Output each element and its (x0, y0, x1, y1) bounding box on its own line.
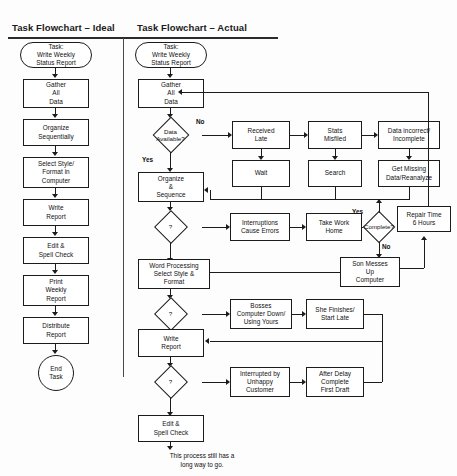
ideal-step-distribute: Distribute Report (23, 317, 89, 344)
ideal-step-edit-spell: Edit & Spell Check (23, 237, 89, 264)
rail-feedback-up-left (210, 190, 211, 199)
rail-after-up (382, 341, 383, 382)
actual-step-get-missing: Get Missing Data/Reanalyze (378, 160, 440, 187)
rail-she-right (364, 314, 382, 315)
actual-step-organize: Organize & Sequence (138, 172, 204, 202)
edge-label-no-2: No (382, 243, 391, 250)
header-actual: Task Flowchart – Actual (137, 22, 247, 33)
actual-step-bosses-computer: Bosses Computer Down/ Using Yours (230, 299, 292, 329)
rail-search-down (335, 187, 336, 199)
ideal-arrow-5 (52, 232, 58, 236)
rail-gm-down (409, 187, 410, 199)
edge-label-no-1: No (196, 118, 205, 125)
rail-after-right (364, 382, 382, 383)
diamond-shape (154, 297, 188, 331)
ideal-arrow-4 (52, 194, 58, 198)
actual-step-she-finishes: She Finishes/ Start Late (306, 299, 364, 329)
ideal-arrow-7 (52, 312, 58, 316)
actual-decision-data-available: Data Available? (139, 118, 202, 152)
actual-step-after-delay: After Delay Complete First Draft (306, 367, 364, 397)
ideal-arrow-6 (52, 270, 58, 274)
actual-decision-2: ? (139, 211, 202, 243)
rail-feedback-arrow (204, 187, 208, 193)
actual-step-repair-time: Repair Time 6 Hours (397, 206, 451, 232)
column-divider (123, 38, 124, 377)
rail-son-to-wp (210, 272, 340, 273)
actual-step-interruptions: Interruptions Cause Errors (230, 213, 290, 241)
actual-step-word-processing: Word Processing Select Style & Format (138, 259, 210, 289)
actual-arrow-complete-yes (376, 199, 382, 203)
flowchart-page: Task Flowchart – Ideal Task Flowchart – … (0, 0, 457, 476)
ideal-step-organize: Organize Sequentially (23, 119, 89, 146)
rail-she-arrow (205, 338, 209, 344)
rail-repair-up (428, 92, 429, 206)
ideal-step-select-style: Select Style/ Format in Computer (23, 157, 89, 188)
edge-label-yes-1: Yes (142, 156, 153, 163)
ideal-step-gather: Gather All Data (23, 79, 89, 108)
header-ideal: Task Flowchart – Ideal (12, 22, 115, 33)
header-rule (8, 37, 278, 39)
actual-conn-complete-yes (379, 203, 380, 213)
ideal-end-terminator: End Task (38, 355, 74, 391)
actual-conn-no-1 (202, 135, 230, 136)
edge-label-yes-2: Yes (352, 208, 363, 215)
ideal-arrow-2 (52, 114, 58, 118)
actual-start-terminator: Task: Write Weekly Status Report (135, 42, 207, 68)
rail-son-to-repair-arrow (421, 236, 427, 240)
actual-step-edit-spell: Edit & Spell Check (138, 415, 204, 442)
actual-conn-dec3-bosses (202, 314, 228, 315)
diamond-shape (363, 211, 396, 244)
actual-arrow-start (167, 74, 173, 78)
diamond-shape (154, 210, 188, 244)
actual-step-search: Search (308, 160, 362, 187)
diamond-shape (152, 117, 189, 154)
rail-repair-to-gather (182, 92, 428, 93)
ideal-arrow-3 (52, 152, 58, 156)
rail-son-to-repair-v (424, 240, 425, 268)
rail-wait-down (261, 187, 262, 199)
actual-step-write-report: Write Report (138, 329, 204, 357)
actual-step-gather: Gather All Data (138, 79, 204, 108)
actual-decision-4: ? (139, 366, 202, 398)
rail-she-to-write (210, 341, 382, 342)
diamond-shape (154, 365, 188, 399)
actual-conn-dec4-interrupted (202, 382, 228, 383)
actual-step-son-messes: Son Messes Up Computer (340, 257, 400, 287)
ideal-arrow-8 (52, 350, 58, 354)
actual-step-interrupted-by: Interrupted by Unhappy Customer (230, 367, 290, 397)
actual-step-wait: Wait (232, 160, 290, 187)
ideal-step-print-weekly: Print Weekly Report (23, 275, 89, 306)
ideal-arrow-1 (52, 74, 58, 78)
actual-conn-dec2-int (202, 227, 228, 228)
actual-step-data-incorrect: Data incorrect/ Incomplete (378, 121, 440, 149)
rail-she-down (382, 314, 383, 341)
actual-step-received-late: Received Late (232, 121, 290, 149)
rail-repair-arrow (178, 89, 182, 95)
actual-footnote: This process still has a long way to go. (113, 452, 291, 469)
actual-arrow-edit-note (167, 446, 173, 450)
actual-step-stats-misfiled: Stats Misfiled (308, 121, 362, 149)
ideal-start-terminator: Task: Write Weekly Status Report (20, 42, 92, 68)
ideal-step-write-report: Write Report (23, 199, 89, 226)
actual-decision-3: ? (139, 298, 202, 330)
